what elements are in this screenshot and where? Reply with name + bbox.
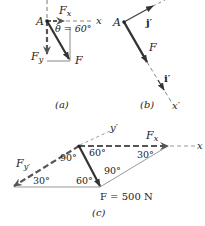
force-f-arrow: [124, 22, 147, 62]
x-prime-axis-label: x′: [172, 100, 181, 111]
angle-30-left: 30°: [33, 175, 50, 186]
point-a: [122, 20, 126, 24]
i-prime-label: i′: [164, 73, 171, 84]
angle-90-right: 90°: [104, 165, 121, 176]
caption-c: (c): [92, 207, 106, 218]
x-axis-label: x: [197, 140, 203, 151]
point-a: [45, 19, 49, 23]
force-f-label: F: [148, 41, 157, 54]
fy-label: Fy: [30, 50, 44, 64]
origin-point: [77, 144, 80, 147]
angle-90-top-left: 90°: [60, 152, 77, 163]
y-prime-axis-line: [153, 0, 165, 6]
force-magnitude-label: F = 500 N: [100, 191, 153, 202]
theta-angle-label: θ = 60°: [55, 23, 92, 34]
y-prime-axis-label: y′: [109, 122, 119, 133]
fx-label: Fx: [58, 4, 72, 18]
point-a-label: A: [35, 15, 44, 28]
panel-b: A j′ F i′ (b) x′: [112, 0, 181, 111]
point-a-label: A: [112, 16, 121, 29]
j-prime-label: j′: [145, 17, 153, 28]
panel-a: A x Fx θ = 60° Fy F (a): [30, 0, 102, 110]
angle-60-top: 60°: [89, 147, 106, 158]
panel-c: y′ x Fx Fy′ 30° 60° 90° 90° 60° 30° F = …: [14, 122, 203, 218]
force-diagram: A x Fx θ = 60° Fy F (a) A j′ F i′ (b) x′…: [0, 0, 205, 226]
angle-30-right: 30°: [137, 149, 154, 160]
y-prime-axis-line: [80, 131, 110, 145]
angle-60-bottom: 60°: [76, 175, 93, 186]
caption-a: (a): [55, 99, 69, 110]
force-f-label: F: [74, 54, 83, 67]
fx-label: Fx: [145, 129, 159, 143]
fy-prime-label: Fy′: [15, 157, 30, 171]
caption-b: (b): [140, 99, 154, 110]
x-axis-label: x: [96, 15, 102, 26]
